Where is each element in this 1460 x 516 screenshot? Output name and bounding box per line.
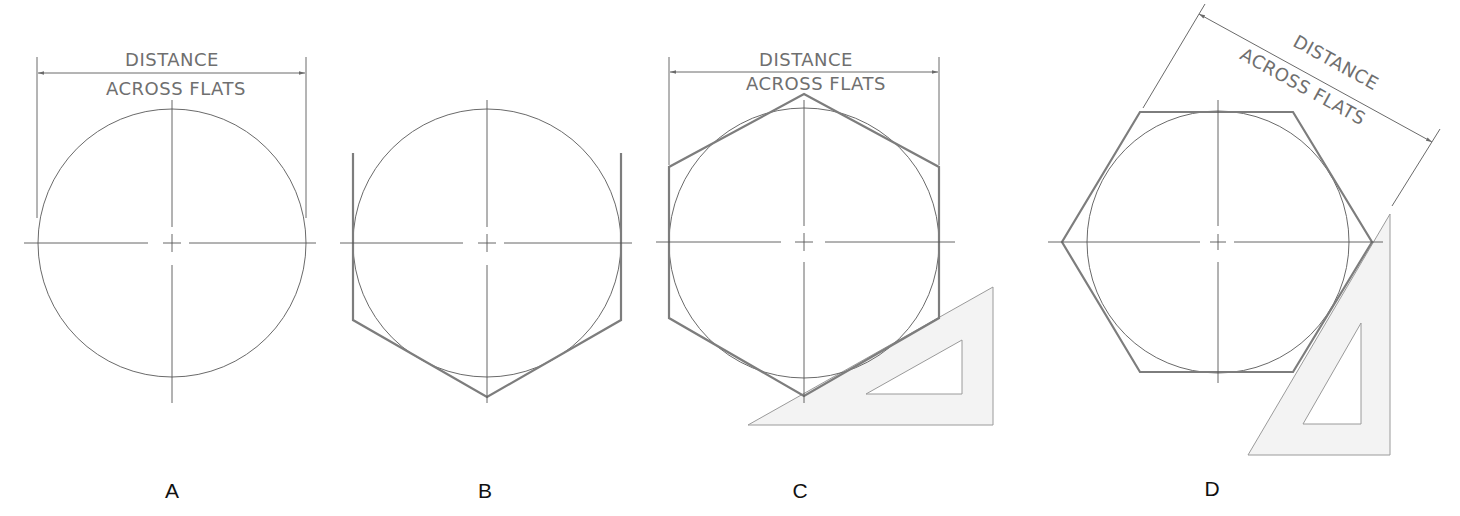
extension-line-right — [1392, 129, 1440, 206]
panel-a — [24, 57, 316, 403]
panel-label-d: D — [1192, 477, 1232, 501]
panel-c — [656, 57, 993, 425]
dimension-label-a-line2: ACROSS FLATS — [106, 78, 246, 99]
dimension-label-a-line1: DISTANCE — [125, 49, 219, 70]
panel-label-b: B — [465, 479, 505, 503]
panel-b — [340, 100, 632, 403]
panel-d — [1048, 4, 1440, 455]
dimension-line — [1199, 14, 1432, 142]
dimension-label-c-line1: DISTANCE — [759, 49, 853, 70]
dimension-label-c-line2: ACROSS FLATS — [746, 73, 886, 94]
extension-line-left — [1143, 4, 1205, 108]
hexagon-construction-diagram: DISTANCE ACROSS FLATS DISTANCE ACROSS FL… — [0, 0, 1460, 516]
panel-label-a: A — [152, 479, 192, 503]
panel-label-c: C — [780, 479, 820, 503]
